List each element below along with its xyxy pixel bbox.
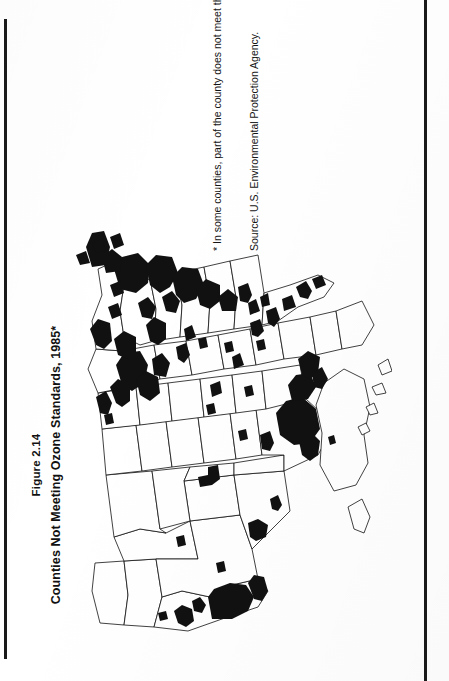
page-rule-bottom xyxy=(424,0,427,681)
scanned-page: Figure 2.14 Counties Not Meeting Ozone S… xyxy=(0,0,449,681)
map-svg xyxy=(62,221,392,641)
figure-notes: * In some counties, part of the county d… xyxy=(210,1,261,251)
rotated-page-content: Figure 2.14 Counties Not Meeting Ozone S… xyxy=(0,0,449,681)
page-rule-top xyxy=(4,19,7,659)
figure-heading: Figure 2.14 Counties Not Meeting Ozone S… xyxy=(28,315,66,615)
state-outlines xyxy=(88,255,392,631)
figure-source: Source: U.S. Environmental Protection Ag… xyxy=(247,1,262,251)
figure-number: Figure 2.14 xyxy=(28,315,44,615)
figure-footnote: * In some counties, part of the county d… xyxy=(210,1,225,251)
us-county-ozone-map xyxy=(62,221,392,641)
